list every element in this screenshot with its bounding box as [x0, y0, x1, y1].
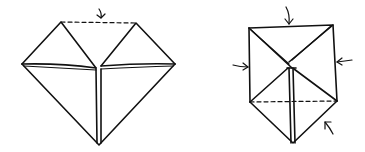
fold-arrow-down-icon	[97, 9, 105, 18]
arrow-left-in-icon	[233, 63, 248, 70]
figure-left	[22, 9, 175, 145]
right-flap	[101, 23, 175, 66]
arrow-top-down-icon	[285, 7, 293, 24]
figure-right	[233, 7, 352, 143]
origami-diagram	[0, 0, 365, 152]
arrow-bottom-right-up-icon	[325, 122, 333, 134]
arrow-right-in-icon	[337, 58, 352, 65]
lower-edges	[22, 64, 175, 145]
dashed-fold-line	[61, 22, 136, 23]
left-flap	[22, 22, 96, 68]
dashed-base-line	[250, 101, 337, 102]
